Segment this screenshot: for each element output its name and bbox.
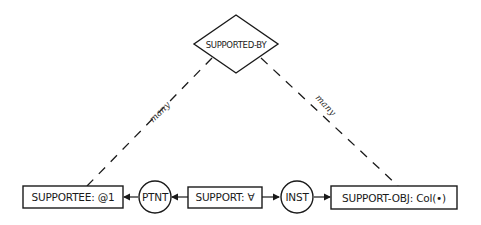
- ptnt-label: PTNT: [142, 191, 169, 203]
- supported-by-label: SUPPORTED-BY: [206, 40, 268, 50]
- supportee-label: SUPPORTEE: @1: [32, 191, 115, 203]
- relation-inst[interactable]: INST: [281, 181, 313, 213]
- link-supported-by-to-supportee: [87, 58, 212, 186]
- link-supported-by-to-support-obj: [261, 58, 398, 186]
- conceptual-graph: many many SUPPORTED-BY SUPPORTEE: @1 PTN…: [0, 0, 481, 225]
- support-obj-label: SUPPORT-OBJ: Col(•): [342, 192, 446, 204]
- inst-label: INST: [285, 191, 309, 203]
- many-label-left: many: [147, 99, 172, 124]
- support-label: SUPPORT: ∀: [195, 191, 255, 203]
- concept-support[interactable]: SUPPORT: ∀: [188, 187, 262, 208]
- relation-ptnt[interactable]: PTNT: [139, 181, 171, 213]
- concept-support-obj[interactable]: SUPPORT-OBJ: Col(•): [331, 186, 457, 209]
- many-label-right: many: [314, 93, 339, 119]
- concept-supportee[interactable]: SUPPORTEE: @1: [23, 186, 123, 208]
